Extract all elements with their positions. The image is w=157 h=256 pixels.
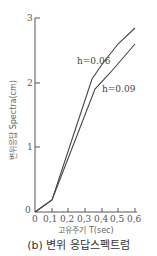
x-tick-label-0.1: 0,1 <box>43 214 57 224</box>
y-tick-label-1: 1 <box>27 142 33 152</box>
x-ticks <box>52 208 135 212</box>
y-axis-label: 변위응답 Spectra(cm) <box>8 80 18 160</box>
annotation-h-0.06: h=0.06 <box>77 56 111 66</box>
x-tick-label-0.4: 0,4 <box>94 214 109 224</box>
x-tick-label-0.5: 0,5 <box>110 214 125 224</box>
x-tick-label-0.2: 0,2 <box>60 214 74 224</box>
x-tick-label-0.3: 0,3 <box>77 214 92 224</box>
x-tick-label-0: 0 <box>32 214 38 224</box>
annotation-h-0.09: h=0.09 <box>102 84 136 94</box>
displacement-spectrum-chart: 3 2 1 0 0 0,1 0,2 0,3 0,4 0,5 0,6 고유주기 T… <box>0 0 157 256</box>
y-tick-label-2: 2 <box>27 78 33 88</box>
figure-caption: (b) 변위 응답스펙트럼 <box>0 236 157 252</box>
series-h-0.09 <box>35 44 135 212</box>
y-tick-label-3: 3 <box>27 13 33 23</box>
x-tick-label-0.6: 0,6 <box>127 214 142 224</box>
y-tick-label-0: 0 <box>25 205 31 215</box>
x-axis-label: 고유주기 T(sec) <box>58 226 113 235</box>
